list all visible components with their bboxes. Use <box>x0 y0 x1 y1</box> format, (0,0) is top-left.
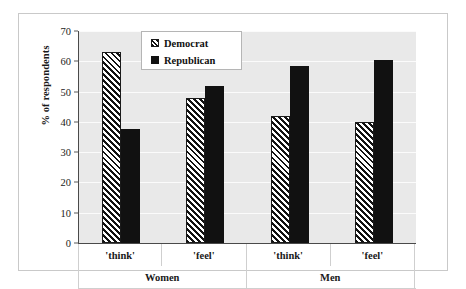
bar-democrat <box>102 52 121 243</box>
bar-republican <box>205 86 224 243</box>
bar-republican <box>290 66 309 243</box>
y-axis-tick-label: 40 <box>61 116 72 127</box>
chart-legend: Democrat Republican <box>141 31 242 70</box>
y-axis-tick-label: 30 <box>61 147 72 158</box>
y-axis-tick-label: 20 <box>61 177 72 188</box>
plot-area: Democrat Republican <box>78 31 416 244</box>
legend-item-democrat: Democrat <box>151 35 241 51</box>
legend-swatch-republican-icon <box>151 56 159 64</box>
category-label: 'think' <box>78 244 162 266</box>
y-axis-tick-label: 70 <box>61 26 72 37</box>
bar-democrat <box>355 122 374 243</box>
category-axis-row-categories: 'think''feel''think''feel' <box>78 244 416 266</box>
category-label: 'feel' <box>331 244 415 266</box>
y-axis-tick-label: 60 <box>61 56 72 67</box>
gridline <box>79 92 416 93</box>
y-axis-tick-label: 10 <box>61 207 72 218</box>
gridline <box>79 61 416 62</box>
y-axis-tick-label: 50 <box>61 86 72 97</box>
group-label: Women <box>78 266 247 288</box>
bar-democrat <box>271 116 290 243</box>
legend-item-republican: Republican <box>151 52 241 68</box>
category-axis-row-groups: WomenMen <box>78 266 416 288</box>
gridline <box>79 31 416 32</box>
bar-republican <box>374 60 393 243</box>
bar-democrat <box>186 98 205 243</box>
y-axis-tick-label: 0 <box>66 238 71 249</box>
category-axis: 'think''feel''think''feel' WomenMen <box>78 244 416 288</box>
group-label: Men <box>247 266 416 288</box>
legend-label-republican: Republican <box>164 55 215 66</box>
y-axis-tick-labels: 010203040506070 <box>48 31 74 243</box>
legend-swatch-democrat-icon <box>151 39 159 47</box>
legend-label-democrat: Democrat <box>164 38 208 49</box>
bar-republican <box>121 129 140 243</box>
category-label: 'feel' <box>162 244 246 266</box>
category-label: 'think' <box>247 244 331 266</box>
